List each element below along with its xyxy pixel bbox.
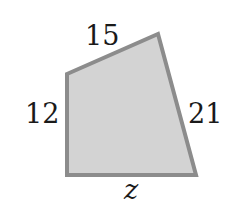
side-label-left: 12 — [25, 98, 59, 129]
side-label-top: 15 — [85, 20, 119, 51]
side-label-right: 21 — [188, 98, 222, 129]
quadrilateral-diagram: 15 12 21 z — [0, 0, 234, 215]
side-label-bottom: z — [123, 174, 139, 205]
quadrilateral-shape — [67, 34, 196, 175]
